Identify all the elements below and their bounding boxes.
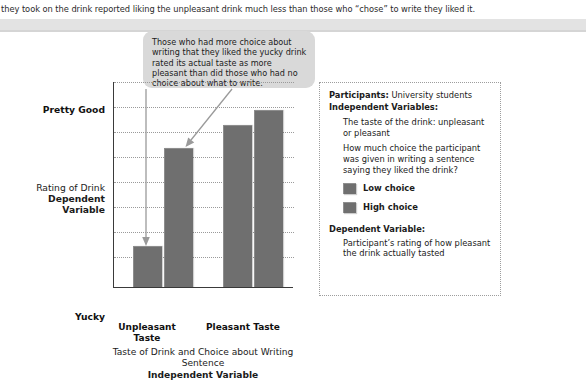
gridline [114,82,294,83]
y-axis-title-main: Rating of Drink [18,182,105,193]
dependent-variable-label: Dependent Variable: [329,224,491,235]
independent-variables-label: Independent Variables: [329,102,491,113]
participants-row: Participants: University students [329,90,491,101]
legend-item-low-choice: Low choice [343,183,491,194]
callout-text: Those who had more choice about writing … [152,37,307,88]
chart-plot-area [113,82,293,288]
gridline [114,107,294,108]
legend-item-high-choice: High choice [343,202,491,213]
x-category-pleasant: Pleasant Taste [196,322,290,333]
dependent-variable-block: Dependent Variable: Participant’s rating… [329,224,491,259]
participants-label: Participants: [329,90,389,100]
iv-item-taste: The taste of the drink: unpleasant or pl… [343,117,491,138]
bar-pleasant-low-choice [223,125,252,287]
callout-bubble: Those who had more choice about writing … [143,31,315,88]
bar-unpleasant-high-choice [164,148,193,287]
legend-swatch-low-choice [343,183,356,194]
legend-label-low-choice: Low choice [363,183,415,194]
participants-value: University students [391,90,472,100]
x-axis-title-sub: Independent Variable [98,370,308,381]
x-axis-title-main: Taste of Drink and Choice about Writing … [98,347,308,370]
figure-panel: Those who had more choice about writing … [0,30,586,360]
x-category-unpleasant: Unpleasant Taste [108,322,186,344]
dependent-variable-text: Participant’s rating of how pleasant the… [343,238,491,259]
y-axis-top-label: Pretty Good [25,104,105,115]
study-info-panel: Participants: University students Indepe… [319,82,501,296]
y-axis-title: Rating of Drink Dependent Variable [18,182,105,216]
bar-unpleasant-low-choice [133,246,162,287]
y-axis-title-sub: Dependent Variable [18,193,105,215]
legend-swatch-high-choice [343,202,356,213]
bar-pleasant-high-choice [254,110,283,287]
legend-label-high-choice: High choice [363,202,418,213]
x-axis-title: Taste of Drink and Choice about Writing … [98,347,308,381]
running-text: they took on the drink reported liking t… [1,4,475,14]
iv-item-choice: How much choice the participant was give… [343,143,491,175]
y-axis-bottom-label: Yucky [25,311,105,322]
